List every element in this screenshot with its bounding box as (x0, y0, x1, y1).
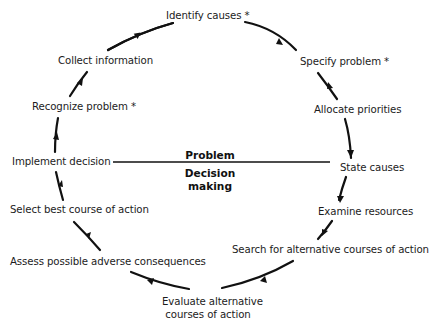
step-evaluate-alternatives: Evaluate alternative courses of action (162, 295, 254, 321)
arrow-identify-to-specify (245, 22, 296, 50)
step-implement-decision: Implement decision (12, 155, 111, 168)
arrow-evaluate-to-assess (131, 272, 189, 289)
step-specify-problem: Specify problem * (300, 55, 389, 68)
step-search-alternatives: Search for alternative courses of action (232, 243, 429, 256)
arrowhead-icon (322, 229, 328, 236)
step-recognize-problem: Recognize problem * (32, 100, 136, 113)
arrow-search-to-evaluate (222, 261, 293, 288)
step-examine-resources: Examine resources (318, 205, 413, 218)
step-evaluate-line2: courses of action (162, 308, 254, 321)
step-identify-causes: Identify causes * (166, 9, 250, 22)
center-label-problem: Problem (175, 149, 245, 162)
step-select-best: Select best course of action (10, 203, 149, 216)
arrow-recognize-to-collect (70, 72, 87, 96)
step-allocate-priorities: Allocate priorities (314, 103, 401, 116)
arrow-assess-to-select (74, 222, 100, 250)
step-state-causes: State causes (340, 161, 404, 174)
center-label-decision: Decision (175, 167, 245, 180)
step-collect-information: Collect information (58, 54, 153, 67)
arrowhead-icon (327, 82, 333, 89)
step-evaluate-line1: Evaluate alternative (162, 295, 254, 308)
arrowhead-icon (347, 150, 354, 158)
center-label-making: making (175, 180, 245, 193)
step-assess-consequences: Assess possible adverse consequences (10, 255, 206, 268)
